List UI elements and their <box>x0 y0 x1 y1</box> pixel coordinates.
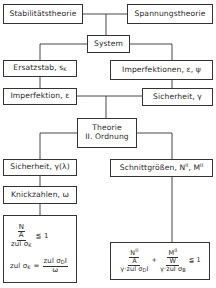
formula-stability-check: N A zul σK ≦ 1 <box>10 224 48 249</box>
node-label: Stabilitätstheorie <box>10 10 77 19</box>
formula-interaction-check: NII A γ·zul σDI + MII W γ·zul σB ≦ 1 <box>119 248 200 273</box>
gamma-zul-sigma: γ·zul σ <box>160 265 182 273</box>
formula-box-right: NII A γ·zul σDI + MII W γ·zul σB ≦ 1 <box>110 242 210 280</box>
plus: + <box>151 257 157 264</box>
suffix-i: I <box>65 257 67 265</box>
node-label: Spannungstheorie <box>135 10 206 19</box>
fraction-bending: MII W γ·zul σB <box>159 248 187 273</box>
sub-b: B <box>182 267 186 273</box>
schnitt-sup-m: II <box>200 162 203 168</box>
sub-k: K <box>28 242 31 248</box>
node-label: Schnittgrößen, NII, MII <box>120 163 203 173</box>
suffix-i: I <box>146 265 148 273</box>
relation: ≦ 1 <box>36 232 49 240</box>
zul-sigma-d: zul σ <box>44 257 61 265</box>
schnitt-text: Schnittgrößen, N <box>120 163 185 172</box>
lhs: zul σ <box>10 262 27 270</box>
node-schnittgroessen: Schnittgrößen, NII, MII <box>110 159 213 177</box>
node-label: Knickzahlen, ω <box>11 191 69 200</box>
denominator-a: A <box>18 232 25 240</box>
node-imperfektion: Imperfektion, ε <box>3 88 77 105</box>
node-ersatzstab: Ersatzstab, sK <box>3 60 77 77</box>
sup-ii: II <box>174 247 177 253</box>
node-label: Imperfektionen, ε, ψ <box>122 66 201 75</box>
node-theorie-2-ordnung: Theorie II. Ordnung <box>77 118 137 148</box>
formula-box-left: N A zul σK ≦ 1 zul σK = zul σDI ω <box>3 215 77 283</box>
zul-sigma: zul σ <box>11 240 28 248</box>
ersatzstab-subscript: K <box>63 66 66 72</box>
fraction-axial: NII A γ·zul σDI <box>119 248 149 273</box>
node-label: Sicherheit, γ <box>153 93 202 102</box>
node-stabilitaetstheorie: Stabilitätstheorie <box>3 4 83 24</box>
schnitt-mid: , M <box>188 163 200 172</box>
node-knickzahlen: Knickzahlen, ω <box>3 186 77 204</box>
node-imperfektionen: Imperfektionen, ε, ψ <box>110 60 213 80</box>
node-label-line2: II. Ordnung <box>85 133 128 142</box>
node-label: System <box>94 40 123 49</box>
node-sicherheit: Sicherheit, γ <box>142 88 213 106</box>
node-label: Sicherheit, γ(λ) <box>10 163 70 172</box>
relation: ≦ 1 <box>189 257 201 264</box>
node-sicherheit-lambda: Sicherheit, γ(λ) <box>3 159 77 176</box>
omega: ω <box>51 267 59 275</box>
sup-ii: II <box>135 247 138 253</box>
node-spannungstheorie: Spannungstheorie <box>127 4 213 24</box>
fraction: N A zul σK <box>10 224 33 249</box>
node-label: Ersatzstab, sK <box>13 64 66 73</box>
a: A <box>131 258 138 265</box>
ersatzstab-text: Ersatzstab, s <box>13 63 63 72</box>
fraction: zul σDI ω <box>43 258 68 274</box>
formula-zul-sigma-k: zul σK = zul σDI ω <box>10 258 68 274</box>
node-label: Imperfektion, ε <box>11 92 70 101</box>
gamma-zul-sigma: γ·zul σ <box>120 265 142 273</box>
w: W <box>169 258 178 265</box>
node-system: System <box>87 35 130 53</box>
sub-k: K <box>27 264 30 270</box>
equals: = <box>34 262 40 270</box>
